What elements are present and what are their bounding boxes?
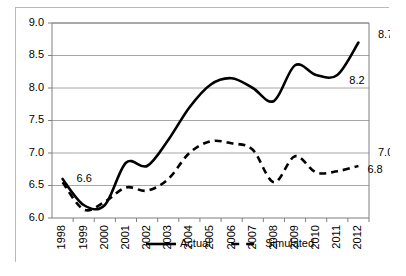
y-tick-label: 8.0	[29, 81, 44, 93]
x-tick-label: 2012	[351, 225, 363, 249]
data-label-start-actual: 6.6	[77, 172, 92, 184]
data-label-right-ref: 7.0	[378, 146, 390, 158]
x-tick-label: 2001	[119, 225, 131, 249]
x-tick-label: 2002	[140, 225, 152, 249]
x-tick-label: 2011	[330, 225, 342, 249]
x-tick-label: 2000	[98, 225, 110, 249]
y-tick-label: 9.0	[29, 16, 44, 28]
x-tick-label: 2007	[246, 225, 258, 249]
y-tick-label: 6.5	[29, 178, 44, 190]
data-label-end-sim: 6.8	[367, 163, 382, 175]
line-chart: 6.06.57.07.58.08.59.0 199819992000200120…	[16, 8, 390, 263]
chart-background	[16, 8, 390, 263]
y-tick-label: 7.5	[29, 113, 44, 125]
y-tick-label: 6.0	[29, 211, 44, 223]
legend-label-simulated: Simulated	[265, 237, 314, 249]
data-label-plateau-actual: 8.2	[349, 74, 364, 86]
x-tick-label: 1999	[77, 225, 89, 249]
x-tick-label: 2003	[161, 225, 173, 249]
x-tick-label: 2006	[225, 225, 237, 249]
y-tick-label: 7.0	[29, 146, 44, 158]
x-tick-label: 1998	[55, 225, 67, 249]
legend-label-actual: Actual	[180, 237, 211, 249]
data-label-end-actual: 8.7	[378, 28, 390, 40]
y-tick-label: 8.5	[29, 48, 44, 60]
chart-container: 6.06.57.07.58.08.59.0 199819992000200120…	[15, 7, 389, 262]
